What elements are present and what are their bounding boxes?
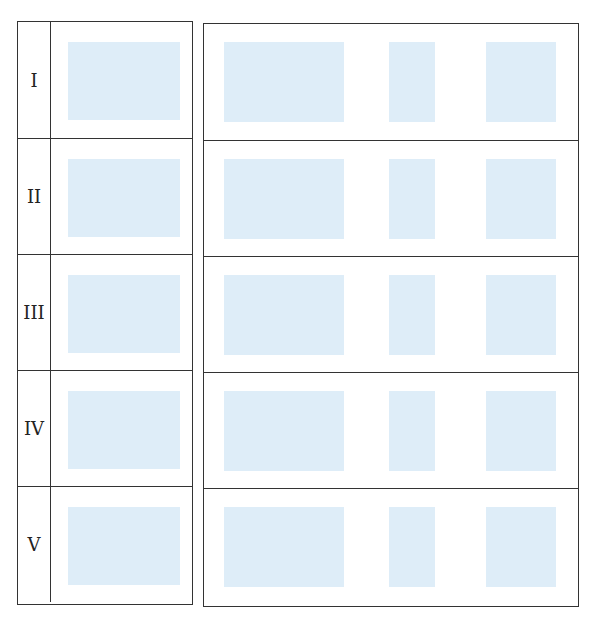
schematic-panel (68, 391, 180, 469)
stage-row (204, 256, 578, 372)
left-stage-table: I II III IV V (17, 21, 193, 605)
side-view-panel (389, 159, 435, 239)
front-view-panel (224, 159, 344, 239)
front-view-panel (224, 391, 344, 471)
stage-row (204, 372, 578, 488)
side-view-panel (389, 507, 435, 587)
front-view-panel (224, 42, 344, 122)
schematic-panel (68, 275, 180, 353)
stage-label: I (18, 22, 51, 138)
stage-label: II (18, 139, 51, 254)
lower-view-panel (486, 507, 556, 587)
stage-row: IV (18, 370, 192, 486)
side-view-panel (389, 391, 435, 471)
front-view-panel (224, 275, 344, 355)
lower-view-panel (486, 391, 556, 471)
lower-view-panel (486, 42, 556, 122)
stage-row: III (18, 254, 192, 370)
schematic-panel (68, 159, 180, 237)
stage-row: II (18, 138, 192, 254)
stage-row (204, 140, 578, 256)
front-view-panel (224, 507, 344, 587)
right-stage-table (203, 23, 579, 607)
schematic-panel (68, 507, 180, 585)
stage-label: III (18, 255, 51, 370)
stage-row: I (18, 22, 192, 138)
schematic-panel (68, 42, 180, 120)
stage-label: V (18, 487, 51, 602)
stage-row: V (18, 486, 192, 602)
lower-view-panel (486, 275, 556, 355)
side-view-panel (389, 275, 435, 355)
stage-label: IV (18, 371, 51, 486)
side-view-panel (389, 42, 435, 122)
stage-row (204, 24, 578, 140)
lower-view-panel (486, 159, 556, 239)
stage-row (204, 488, 578, 604)
